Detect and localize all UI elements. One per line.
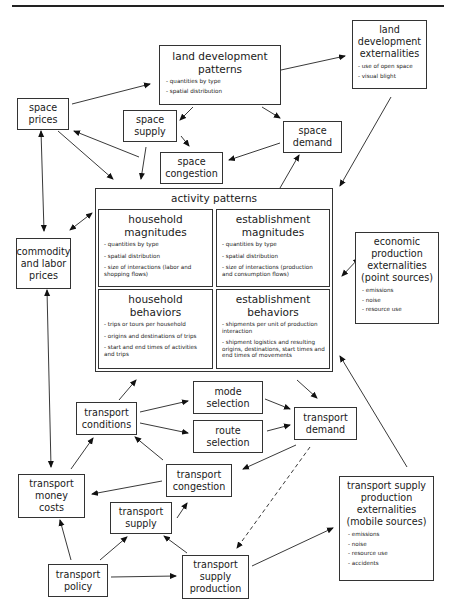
bullet: - shipments per unit of production inter… [222,321,325,334]
bullet: - accidents [348,560,433,567]
edge-route-selection-to-transport-demand [267,425,290,431]
node-establishment-magnitudes: establishment magnitudes - quantities by… [216,209,330,287]
node-title: route [215,425,240,437]
node-transport-supply-production: transport supply production [182,555,249,599]
node-title: economic [356,236,438,248]
node-title: prices [29,270,58,282]
node-title: supply [134,126,166,138]
node-space-demand: space demand [283,121,342,153]
edge-transport-supply-to-transport-congestion [177,503,187,518]
edge-transport-conditions-to-route-selection [140,423,188,433]
node-title: production [340,492,433,504]
node-transport-supply: transport supply [110,502,172,534]
bullet: - spatial distribution [222,253,325,260]
node-title: production [356,248,438,260]
node-title: demand [306,424,345,436]
node-title: policy [64,581,92,593]
bullet: - size of interactions (production and c… [222,264,325,277]
node-title: transport [29,478,73,490]
bullet: - noise [362,297,438,304]
edge-transport-congestion-to-transport-conditions [135,437,163,460]
node-title: prices [29,114,58,126]
edge-space-supply-to-space-congestion [181,136,189,146]
edge-policy-to-transport-supply [100,537,127,560]
edge-space-demand-to-space-congestion [229,143,280,160]
node-title: conditions [82,419,131,431]
bullet: - quantities by type [104,241,208,248]
edge-supply-production-to-transport-supply [164,536,187,553]
node-transport-congestion: transport congestion [166,464,232,497]
node-space-prices: space prices [17,98,69,130]
node-title: space [136,114,164,126]
node-title: and labor [21,258,67,270]
node-transport-money-costs: transport money costs [18,474,85,518]
bullet: - spatial distribution [166,88,280,95]
bullet: - shipment logistics and resulting origi… [222,339,325,359]
node-establishment-behaviors: establishment behaviors - shipments per … [216,289,330,369]
node-title: magnitudes [217,226,329,239]
node-title: activity patterns [96,192,332,205]
bullet: - trips or tours per household [104,321,208,328]
node-title: production [190,583,242,595]
node-mode-selection: mode selection [193,381,263,414]
node-title: transport [303,412,347,424]
node-title: mode [214,386,241,398]
node-title: transport [56,569,100,581]
edge-transport-demand-to-supply-production [237,447,310,548]
node-title: externalities [340,504,433,516]
node-space-supply: space supply [123,110,177,142]
node-title: transport [177,469,221,481]
bullet: - quantities by type [222,241,325,248]
node-title: household [99,293,212,306]
node-title: establishment [217,213,329,226]
edge-space-supply-to-activity-patterns [141,147,146,179]
node-title: development [353,36,426,48]
node-title: selection [206,437,249,449]
node-title: space [29,102,57,114]
edge-transport-conditions-to-mode-selection [140,401,188,412]
node-title: land development [160,50,280,63]
edge-activity-patterns-to-space-demand [280,155,299,188]
bullet: - emissions [362,287,438,294]
edge-supply-production-to-transport-externalities [252,528,333,566]
edge-money-costs-to-transport-conditions [71,438,93,469]
node-title: costs [39,502,64,514]
edge-land-dev-patterns-to-space-demand [262,107,280,118]
edge-activity-patterns-to-transport-demand [297,380,317,398]
node-space-congestion: space congestion [160,152,223,184]
node-land-development-patterns: land development patterns - quantities b… [159,45,281,105]
node-title: transport supply [340,480,433,492]
edge-transport-conditions-to-activity-patterns [119,380,136,400]
node-title: transport [119,506,163,518]
node-title: selection [206,398,249,410]
edge-space-prices-commodity-prices [41,131,44,231]
bullet: - use of open space [358,63,426,70]
node-title: space [177,156,205,168]
edge-land-dev-externalities-to-activity-patterns [340,97,391,186]
node-title: money [35,490,68,502]
node-title: (point sources) [356,272,438,284]
edge-policy-to-supply-production [111,576,176,577]
bullet: - noise [348,541,433,548]
node-title: land [353,24,426,36]
node-title: behaviors [99,306,212,319]
edge-space-prices-to-land-dev-patterns [72,84,150,104]
node-household-magnitudes: household magnitudes - quantities by typ… [98,209,213,287]
edge-land-dev-patterns-to-space-supply [180,107,193,120]
node-title: externalities [356,260,438,272]
node-title: congestion [173,481,226,493]
node-title: space [298,125,326,137]
edge-space-prices-to-activity-patterns [58,131,113,179]
node-title: transport [84,407,128,419]
bullet: - size of interactions (labor and shoppi… [104,264,208,277]
node-transport-policy: transport policy [48,564,108,597]
node-route-selection: route selection [193,420,263,453]
node-title: transport [193,559,237,571]
node-transport-demand: transport demand [294,407,357,440]
node-transport-conditions: transport conditions [76,402,137,435]
node-title: supply [200,571,232,583]
bullet: - resource use [348,550,433,557]
bullet: - resource use [362,306,438,313]
node-title: behaviors [217,306,329,319]
node-household-behaviors: household behaviors - trips or tours per… [98,289,213,369]
